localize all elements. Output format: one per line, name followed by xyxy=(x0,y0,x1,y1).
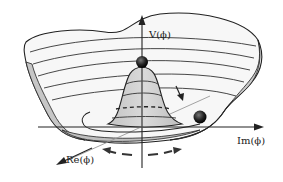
ball-top-icon xyxy=(136,56,148,68)
re-axis-label: Re(ϕ) xyxy=(66,155,94,165)
mexican-hat-potential-diagram: V(ϕ) Im(ϕ) Re(ϕ) xyxy=(0,0,283,182)
potential-surface-svg xyxy=(0,0,283,182)
v-axis-label: V(ϕ) xyxy=(149,30,171,40)
im-axis-label: Im(ϕ) xyxy=(237,136,265,146)
ball-trough-icon xyxy=(194,111,207,124)
